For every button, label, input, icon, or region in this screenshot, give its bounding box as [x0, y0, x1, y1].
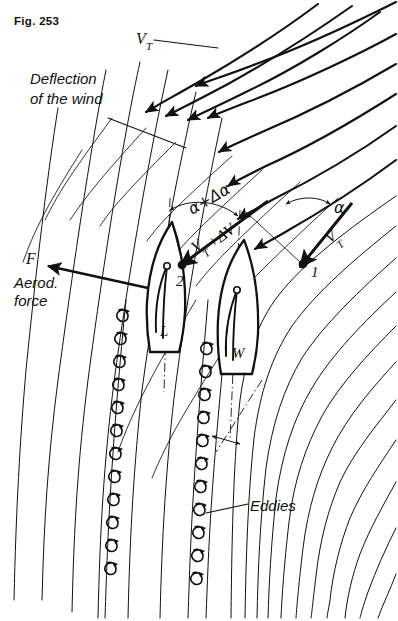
figure-container: Fig. 253: [0, 0, 398, 621]
eddies-callout: Eddies: [206, 497, 296, 514]
aerodynamic-force-group: F Aerod. force: [13, 250, 148, 309]
boat-leeward-station-label: 2: [176, 273, 184, 289]
figure-caption: Fig. 253: [14, 15, 59, 27]
eddies-leader: [206, 504, 248, 513]
wake-width-guide: [216, 380, 262, 452]
streamline-thin: [231, 196, 396, 618]
boat-windward-mast-marker: [234, 287, 240, 293]
streamline-thick: [228, 94, 396, 186]
angle-alpha-arc: [286, 198, 330, 204]
streamline-thin: [281, 326, 396, 618]
wind-deflection-diagram: Fig. 253: [0, 0, 398, 621]
eddy-glyph: [111, 424, 124, 436]
angle-alpha-label: α: [334, 198, 345, 217]
deflection-leader: [108, 118, 186, 148]
eddy-glyph: [192, 549, 205, 561]
true-wind-top-callout: V T: [136, 30, 218, 52]
eddy-glyph: [191, 572, 204, 584]
angle-alpha-delta-label: α+Δα: [185, 179, 234, 218]
vector-true-wind-2-delta: +ΔV: [204, 219, 240, 252]
boat-windward[interactable]: W: [218, 210, 258, 440]
true-wind-top-subscript: T: [146, 40, 153, 52]
angle-alpha-reference-leg: [246, 212, 300, 262]
streamline-thin: [72, 62, 140, 612]
eddy-glyph: [197, 434, 210, 446]
deflection-caption-line1: Deflection: [30, 70, 97, 87]
streamline-thin: [296, 362, 396, 618]
true-wind-top-leader: [154, 40, 218, 48]
streamline-thin: [14, 108, 58, 600]
eddy-glyph: [113, 378, 126, 390]
streamline-thin: [45, 118, 112, 220]
streamline-thin: [378, 574, 396, 618]
aerodynamic-force-symbol: F: [25, 250, 36, 267]
streamline-thin: [100, 142, 176, 226]
streamline-thin: [70, 128, 146, 220]
streamline-thin: [128, 92, 196, 618]
eddy-column-right: [191, 342, 214, 584]
eddy-glyph: [110, 447, 123, 459]
boat-leeward-label: L: [159, 323, 168, 339]
station-one-label: 1: [311, 264, 319, 280]
deflection-caption-line2: of the wind: [30, 90, 103, 107]
aerodynamic-force-arrow: [48, 266, 148, 288]
vector-true-wind-1-subscript: T: [334, 237, 347, 251]
streamline-thin: [245, 226, 396, 618]
thick-streamlines-group: [146, 2, 396, 249]
eddy-glyph: [198, 411, 211, 423]
eddy-glyph: [195, 480, 208, 492]
eddy-glyph: [109, 470, 122, 482]
boat-leeward[interactable]: 2 L: [147, 198, 187, 392]
eddy-glyph: [201, 342, 214, 354]
eddies-caption: Eddies: [250, 497, 296, 514]
eddy-glyph: [112, 401, 125, 413]
eddy-glyph: [194, 503, 207, 515]
streamline-thick: [146, 4, 318, 112]
aerodynamic-force-caption-line1: Aerod.: [13, 274, 58, 291]
streamline-thin: [311, 400, 396, 618]
eddy-glyph: [193, 526, 206, 538]
boat-leeward-mast-marker: [164, 263, 170, 269]
eddy-glyph: [196, 457, 209, 469]
aerodynamic-force-caption-line2: force: [14, 292, 47, 309]
streamline-thin: [345, 482, 396, 618]
boat-windward-label: W: [232, 345, 246, 361]
streamline-thin: [327, 440, 396, 618]
